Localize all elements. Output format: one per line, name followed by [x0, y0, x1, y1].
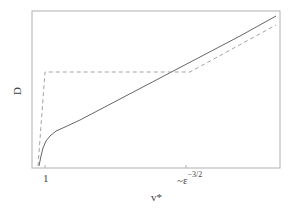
y-axis-label: D	[11, 87, 23, 95]
dashed-curve	[38, 25, 276, 166]
x-tick-label-eps: ~ε−3/2	[177, 172, 202, 186]
x-tick-label-eps-exponent: −3/2	[188, 170, 203, 179]
x-tick-label-eps-base: ~ε	[177, 174, 188, 186]
solid-curve	[39, 16, 276, 166]
x-axis-label: v*	[151, 191, 162, 203]
x-tick-label-1: 1	[43, 172, 49, 184]
